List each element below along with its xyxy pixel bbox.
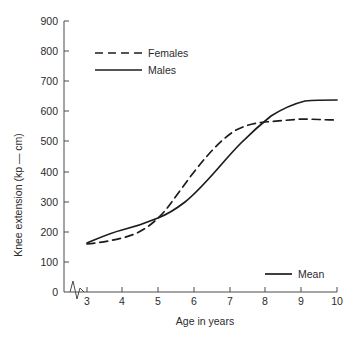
- x-tick-label-6: 6: [191, 295, 197, 307]
- y-tick-label-400: 400: [40, 166, 58, 178]
- y-axis-title: Knee extension (kp — cm): [12, 133, 24, 257]
- x-tick-label-9: 9: [298, 295, 304, 307]
- y-tick-label-600: 600: [40, 105, 58, 117]
- y-tick-label-700: 700: [40, 75, 58, 87]
- y-tick-label-300: 300: [40, 196, 58, 208]
- series-line-males: [87, 100, 337, 243]
- legend-label-females: Females: [148, 47, 188, 59]
- y-tick-label-500: 500: [40, 135, 58, 147]
- legend-label-males: Males: [148, 64, 176, 76]
- x-axis-title: Age in years: [176, 315, 234, 327]
- y-tick-label-200: 200: [40, 226, 58, 238]
- series-line-females: [87, 119, 337, 244]
- x-tick-label-10: 10: [331, 295, 343, 307]
- axis-break-icon: [70, 281, 84, 299]
- x-tick-label-7: 7: [227, 295, 233, 307]
- x-tick-label-8: 8: [262, 295, 268, 307]
- knee-extension-line-chart: 900 800 700 600 500 400 300 200 100 0 3 …: [0, 0, 360, 338]
- legend-label-mean: Mean: [298, 268, 324, 280]
- y-tick-label-0: 0: [52, 286, 58, 298]
- chart-figure: 900 800 700 600 500 400 300 200 100 0 3 …: [0, 0, 360, 338]
- x-tick-label-4: 4: [119, 295, 125, 307]
- x-tick-label-5: 5: [155, 295, 161, 307]
- x-tick-label-3: 3: [84, 295, 90, 307]
- y-tick-label-100: 100: [40, 256, 58, 268]
- y-tick-label-800: 800: [40, 45, 58, 57]
- y-tick-label-900: 900: [40, 15, 58, 27]
